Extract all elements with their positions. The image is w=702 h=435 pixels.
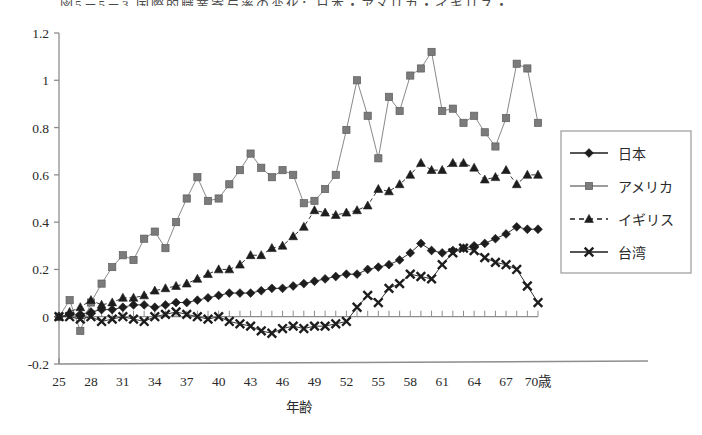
data-point-x — [353, 303, 362, 312]
data-point-diamond — [512, 222, 521, 231]
x-tick-label: 37 — [180, 374, 194, 389]
x-marker — [225, 317, 234, 326]
triangle-marker — [491, 173, 500, 181]
diamond-marker — [150, 303, 159, 312]
diamond-marker — [289, 282, 298, 291]
data-point-square — [375, 155, 382, 162]
x-marker — [300, 324, 309, 333]
triangle-marker — [108, 298, 117, 306]
square-marker — [300, 200, 307, 207]
x-marker — [246, 322, 255, 331]
square-marker — [364, 112, 371, 119]
data-point-square — [119, 252, 126, 259]
diamond-marker — [193, 296, 202, 305]
data-point-x — [225, 317, 234, 326]
data-point-square — [524, 65, 531, 72]
diamond-marker — [299, 279, 308, 288]
triangle-marker — [236, 260, 245, 268]
line-chart: 1.210.80.60.40.20-0.22528313437404346495… — [0, 0, 702, 435]
x-marker — [278, 324, 287, 333]
data-point-square — [130, 256, 137, 263]
x-tick-label: 34 — [148, 374, 162, 389]
data-point-square — [141, 235, 148, 242]
square-marker — [279, 167, 286, 174]
legend-item-2[interactable]: アメリカ — [570, 180, 673, 195]
diamond-marker — [353, 270, 362, 279]
triangle-marker — [502, 166, 511, 174]
data-point-triangle — [299, 222, 308, 230]
triangle-marker — [459, 158, 468, 166]
triangle-marker — [225, 265, 234, 273]
data-point-diamond — [385, 260, 394, 269]
triangle-marker — [427, 166, 436, 174]
data-point-x — [480, 253, 489, 262]
data-point-triangle — [395, 180, 404, 188]
data-point-square — [226, 181, 233, 188]
data-point-x — [236, 320, 245, 329]
data-point-triangle — [161, 284, 170, 292]
data-point-square — [460, 119, 467, 126]
data-point-diamond — [299, 279, 308, 288]
data-point-square — [66, 297, 73, 304]
data-point-diamond — [214, 291, 223, 300]
square-marker — [141, 235, 148, 242]
x-marker — [438, 260, 447, 269]
data-point-triangle — [353, 206, 362, 214]
data-point-x — [363, 291, 372, 300]
diamond-marker — [140, 300, 149, 309]
triangle-marker — [193, 274, 202, 282]
data-point-square — [439, 107, 446, 114]
data-point-square — [247, 150, 254, 157]
x-marker — [342, 317, 351, 326]
data-point-square — [502, 115, 509, 122]
data-point-triangle — [289, 232, 298, 240]
diamond-marker — [374, 263, 383, 272]
triangle-marker — [512, 180, 521, 188]
data-point-diamond — [374, 263, 383, 272]
square-marker — [460, 119, 467, 126]
square-marker — [449, 105, 456, 112]
y-tick-label: 0.8 — [32, 121, 49, 136]
data-point-x — [140, 317, 149, 326]
triangle-marker — [214, 265, 223, 273]
data-point-square — [492, 143, 499, 150]
triangle-marker — [204, 270, 213, 278]
legend-item-3[interactable]: イギリス — [570, 213, 674, 228]
series-line — [59, 163, 538, 317]
data-point-square — [279, 167, 286, 174]
diamond-marker — [257, 286, 266, 295]
data-point-triangle — [278, 241, 287, 249]
triangle-marker — [395, 180, 404, 188]
data-point-triangle — [459, 158, 468, 166]
diamond-marker — [395, 256, 404, 265]
data-point-triangle — [236, 260, 245, 268]
series-2 — [55, 48, 541, 334]
square-marker — [332, 171, 339, 178]
data-point-triangle — [491, 173, 500, 181]
data-point-diamond — [140, 300, 149, 309]
triangle-marker — [480, 175, 489, 183]
square-marker — [130, 256, 137, 263]
triangle-marker — [417, 158, 426, 166]
data-point-square — [109, 263, 116, 270]
data-point-x — [385, 284, 394, 293]
triangle-marker — [161, 284, 170, 292]
diamond-marker — [512, 222, 521, 231]
diamond-marker — [427, 246, 436, 255]
x-tick-label: 46 — [276, 374, 290, 389]
data-point-square — [268, 174, 275, 181]
square-marker — [585, 182, 592, 189]
data-point-diamond — [129, 300, 138, 309]
triangle-marker — [182, 279, 191, 287]
data-point-square — [417, 65, 424, 72]
triangle-marker — [76, 303, 85, 311]
legend-item-4[interactable]: 台湾 — [570, 245, 646, 261]
x-marker — [512, 265, 521, 274]
square-marker — [151, 228, 158, 235]
diamond-marker — [182, 298, 191, 307]
legend-item-1[interactable]: 日本 — [570, 147, 646, 162]
diamond-marker — [585, 149, 594, 158]
square-marker — [353, 77, 360, 84]
triangle-marker — [448, 158, 457, 166]
square-marker — [77, 327, 84, 334]
